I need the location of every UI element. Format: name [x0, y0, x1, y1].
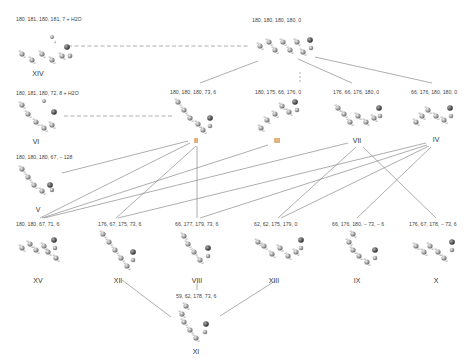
molecule-layer [0, 0, 471, 362]
molecule-X [412, 239, 454, 262]
molecule-I [256, 37, 313, 56]
molecule-VI [18, 99, 56, 132]
molecule-II [174, 98, 212, 134]
molecule-IV [412, 105, 453, 126]
molecule-VIII [180, 232, 210, 264]
conformer-diagram: 180, 181, 180, 181, 7 + H2O 180, 180, 18… [0, 0, 471, 362]
molecule-IX [345, 230, 377, 266]
molecule-VII [334, 104, 382, 126]
molecule-XV [18, 237, 59, 262]
molecule-XI [178, 302, 208, 342]
molecule-III [257, 99, 299, 132]
molecule-V [18, 165, 54, 195]
molecule-XII [99, 230, 135, 270]
molecule-XIV [18, 35, 72, 64]
molecule-XIII [254, 237, 303, 260]
